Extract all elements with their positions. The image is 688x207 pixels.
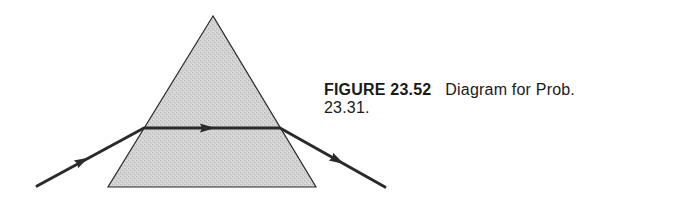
prism-triangle xyxy=(108,16,316,187)
caption-text-line2: 23.31. xyxy=(324,99,674,117)
figure-label: FIGURE 23.52 xyxy=(324,81,431,98)
emergent-ray-arrow-icon xyxy=(329,153,346,168)
figure-caption: FIGURE 23.52Diagram for Prob. 23.31. xyxy=(324,81,674,117)
caption-text-line1: Diagram for Prob. xyxy=(445,81,575,98)
